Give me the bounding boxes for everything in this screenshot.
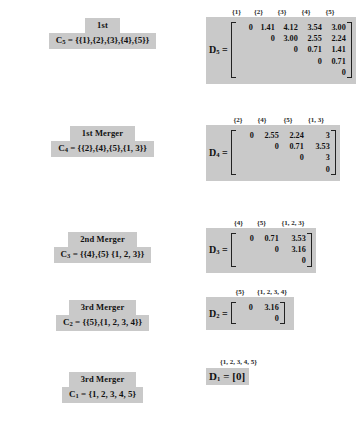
matrix-label-3: D3 =	[209, 244, 231, 255]
matrix-subscript: 5	[216, 48, 219, 55]
matrix-cell	[237, 152, 254, 163]
matrix-cell: 2.24	[322, 33, 346, 44]
matrix-cell	[237, 33, 253, 44]
matrix-row: 0 0.71	[237, 56, 346, 67]
matrix-cell: 0.71	[298, 44, 322, 55]
matrix-row: 0	[237, 313, 279, 324]
matrix-headers-4: {2} {4} {5} {1, 3}	[227, 116, 340, 124]
matrix-header-cell: {3}	[270, 8, 294, 16]
matrix-cell: 0	[298, 56, 322, 67]
matrix-header-cell: {1, 2, 3, 4, 5}	[220, 358, 257, 366]
matrix-cell	[237, 164, 254, 175]
matrix-headers-1: {1, 2, 3, 4, 5}	[220, 358, 257, 366]
matrix-header-cell: {2}	[227, 116, 249, 124]
matrix-cell	[298, 67, 322, 78]
matrix-row: 0 2.55 2.24 3	[237, 130, 330, 141]
matrix-body-1: D1 = [0]	[206, 368, 249, 385]
matrix-cell	[253, 56, 275, 67]
stage-title-3: 2nd Merger	[68, 232, 137, 247]
matrix-rows-4: 0 2.55 2.24 3 0 0.71 3.53 0	[236, 130, 331, 175]
matrix-rows-3: 0 0.71 3.53 0 3.16 0	[236, 233, 307, 267]
matrix-header-cell: {1, 2, 3, 4}	[250, 288, 294, 296]
matrix-row: 0 0.71 3.53	[237, 233, 306, 244]
cluster-subscript-2: 2	[70, 320, 73, 327]
cluster-equation-4: C4 = {{2},{4},{5},{1, 3}}	[51, 141, 154, 157]
matrix-bracket-4: 0 2.55 2.24 3 0 0.71 3.53 0	[231, 128, 336, 177]
matrix-block-5: {1} {2} {3} {4} {5} D5 = 0 1.41 4.12 3.5…	[206, 8, 356, 84]
matrix-body-2: D2 = 0 3.16 0	[206, 297, 294, 330]
matrix-cell: 3.00	[275, 33, 298, 44]
matrix-row: 0 3.16	[237, 244, 306, 255]
matrix-header-cell: {5}	[275, 116, 301, 124]
matrix-cell: 0	[322, 67, 346, 78]
matrix-cell: 3	[304, 152, 330, 163]
matrix-cell: 1.41	[322, 44, 346, 55]
cluster-block-3: 2nd Merger C3 = {{4},{5} {1, 2, 3}}	[0, 232, 205, 263]
matrix-cell: 0.71	[322, 56, 346, 67]
matrix-cell: 3.54	[298, 22, 322, 33]
equals-sign: =	[81, 389, 86, 399]
matrix-cell: 0	[304, 164, 330, 175]
page-footer-artifact	[0, 430, 332, 437]
matrix-cell	[237, 313, 253, 324]
matrix-header-cell: {4}	[249, 116, 275, 124]
matrix-cell: 3.16	[253, 302, 279, 313]
matrix-cell	[254, 152, 279, 163]
matrix-rows-5: 0 1.41 4.12 3.54 3.00 0 3.00 2.55 2.24	[236, 22, 347, 78]
cluster-equation-3: C3 = {{4},{5} {1, 2, 3}}	[54, 247, 152, 263]
matrix-cell: 0	[279, 255, 306, 266]
matrix-header-cell: {5}	[318, 8, 342, 16]
equals-sign: =	[75, 317, 80, 327]
matrix-block-1: {1, 2, 3, 4, 5} D1 = [0]	[206, 358, 257, 385]
matrix-header-cell: {5}	[249, 219, 274, 227]
equals-sign: =	[73, 249, 78, 259]
matrix-row: 0 0.71 3.53	[237, 141, 330, 152]
cluster-value-4: {{2},{4},{5},{1, 3}}	[78, 143, 147, 153]
matrix-header-cell: {1}	[226, 8, 247, 16]
matrix-header-cell: {2}	[247, 8, 270, 16]
matrix-cell: 2.55	[298, 33, 322, 44]
cluster-value-3: {{4},{5} {1, 2, 3}}	[80, 249, 144, 259]
matrix-cell	[279, 164, 304, 175]
matrix-block-4: {2} {4} {5} {1, 3} D4 = 0 2.55 2.24 3	[206, 116, 340, 181]
cluster-equation-1: C1 = {1, 2, 3, 4, 5}	[62, 387, 143, 403]
matrix-rows-2: 0 3.16 0	[236, 302, 280, 324]
matrix-cell: 0	[237, 22, 253, 33]
matrix-cell	[253, 44, 275, 55]
matrix-cell: 3.53	[279, 233, 306, 244]
matrix-header-cell: {4}	[228, 219, 249, 227]
matrix-body-5: D5 = 0 1.41 4.12 3.54 3.00 0 3.00 2	[206, 17, 356, 84]
matrix-header-cell: {5}	[230, 288, 250, 296]
matrix-row: 0	[237, 164, 330, 175]
matrix-row: 0 3.16	[237, 302, 279, 313]
matrix-cell: 2.55	[254, 130, 279, 141]
matrix-cell	[254, 164, 279, 175]
cluster-block-4: 1st Merger C4 = {{2},{4},{5},{1, 3}}	[0, 126, 205, 157]
cluster-block-1: 3rd Merger C1 = {1, 2, 3, 4, 5}	[0, 372, 205, 403]
matrix-body-3: D3 = 0 0.71 3.53 0 3.16	[206, 228, 316, 273]
matrix-bracket-3: 0 0.71 3.53 0 3.16 0	[231, 231, 312, 269]
matrix-subscript: 2	[216, 312, 219, 319]
stage-title-1: 3rd Merger	[69, 372, 137, 387]
matrix-subscript: 3	[216, 248, 219, 255]
cluster-subscript-5: 5	[62, 38, 65, 45]
matrix-cell: 1.41	[253, 22, 275, 33]
cluster-subscript-1: 1	[75, 392, 78, 399]
matrix-label-2: D2 =	[209, 308, 231, 319]
matrix-headers-3: {4} {5} {1, 2, 3}	[228, 219, 316, 227]
matrix-cell: 0	[237, 302, 253, 313]
matrix-scalar-value-1: = [0]	[223, 370, 245, 382]
matrix-row: 0 0.71 1.41	[237, 44, 346, 55]
matrix-cell: 0	[237, 130, 254, 141]
cluster-value-1: {1, 2, 3, 4, 5}	[88, 389, 136, 399]
matrix-cell	[275, 56, 298, 67]
matrix-cell: 0	[254, 141, 279, 152]
matrix-subscript: 4	[216, 151, 219, 158]
matrix-block-2: {5} {1, 2, 3, 4} D2 = 0 3.16 0	[206, 288, 294, 330]
matrix-bracket-2: 0 3.16 0	[231, 300, 285, 326]
matrix-cell: 0	[254, 244, 279, 255]
matrix-cell	[237, 255, 254, 266]
matrix-cell	[275, 67, 298, 78]
matrix-cell: 2.24	[279, 130, 304, 141]
stage-title-5: 1st	[85, 18, 120, 33]
